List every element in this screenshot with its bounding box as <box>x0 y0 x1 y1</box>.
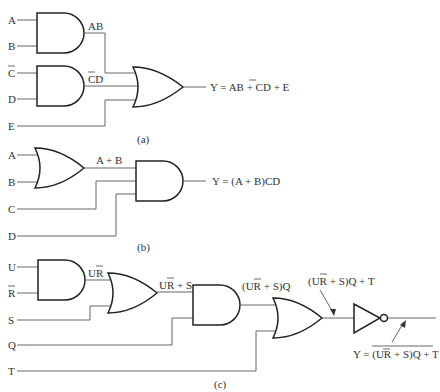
output-expression: Y = (UR + S)Q + T <box>353 348 439 361</box>
caption-c: (c) <box>214 378 227 391</box>
wire-label-urs-q: (UR + S)Q <box>242 280 290 293</box>
input-label-c: C <box>8 203 15 215</box>
wire <box>17 100 137 126</box>
wire-label-ab: AB <box>88 20 103 32</box>
and-gate-icon <box>37 13 84 53</box>
wire <box>17 181 136 209</box>
diagram-a: A B C D E AB CD Y = AB + CD + E (a) <box>8 13 290 146</box>
wire-label-a-plus-b: A + B <box>96 154 122 166</box>
logic-diagrams: A B C D E AB CD Y = AB + CD + E (a) A B … <box>0 0 440 392</box>
diagram-b: A B C D A + B Y = (A + B)CD (b) <box>8 148 280 254</box>
wire <box>17 306 110 320</box>
input-label-e: E <box>8 120 15 132</box>
or-gate-icon <box>35 148 84 188</box>
wire-label-u-r-bar: UR <box>88 267 104 279</box>
or-gate-icon <box>133 67 183 107</box>
input-label-a: A <box>8 149 16 161</box>
and-gate-icon <box>193 285 240 325</box>
and-gate-icon <box>136 161 183 201</box>
not-gate-icon <box>354 304 380 333</box>
caption-b: (b) <box>137 241 150 254</box>
inversion-bubble-icon <box>381 315 388 322</box>
wire-label-urs-q-plus-t: (UR + S)Q + T <box>308 275 375 288</box>
input-label-a: A <box>8 14 16 26</box>
wire <box>84 33 137 73</box>
or-gate-icon <box>273 298 322 338</box>
input-label-s: S <box>8 314 14 326</box>
output-expression: Y = AB + CD + E <box>210 81 290 93</box>
wire-label-ur-plus-s: UR + S <box>159 279 192 291</box>
input-label-d: D <box>8 93 16 105</box>
arrowhead-icon <box>330 309 336 316</box>
wire <box>17 194 136 236</box>
input-label-t: T <box>8 365 15 377</box>
input-label-c-bar: C <box>8 67 15 79</box>
and-gate-icon <box>37 66 84 106</box>
diagram-c: U R S Q T UR UR + S (UR + S)Q (UR + S)Q … <box>8 260 439 391</box>
wire <box>17 331 275 371</box>
caption-a: (a) <box>137 133 150 146</box>
input-label-b: B <box>8 176 15 188</box>
wire-label-c-bar-d: CD <box>88 73 103 85</box>
wire <box>17 318 193 345</box>
input-label-q: Q <box>8 339 16 351</box>
input-label-r-bar: R <box>8 287 16 299</box>
input-label-u: U <box>8 261 16 273</box>
input-label-d: D <box>8 230 16 242</box>
input-label-b: B <box>8 40 15 52</box>
and-gate-icon <box>38 260 85 300</box>
or-gate-icon <box>108 273 157 313</box>
output-expression: Y = (A + B)CD <box>212 175 280 188</box>
